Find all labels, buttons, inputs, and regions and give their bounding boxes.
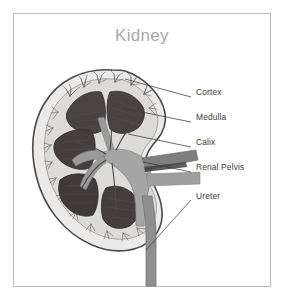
label-calix: Calix: [196, 137, 215, 147]
kidney-diagram-figure: Kidney: [0, 0, 284, 300]
label-medulla: Medulla: [196, 112, 226, 122]
label-cortex: Cortex: [196, 87, 222, 97]
label-renal-pelvis: Renal Pelvis: [196, 162, 244, 172]
kidney-illustration: [0, 0, 284, 300]
label-ureter: Ureter: [196, 191, 220, 201]
